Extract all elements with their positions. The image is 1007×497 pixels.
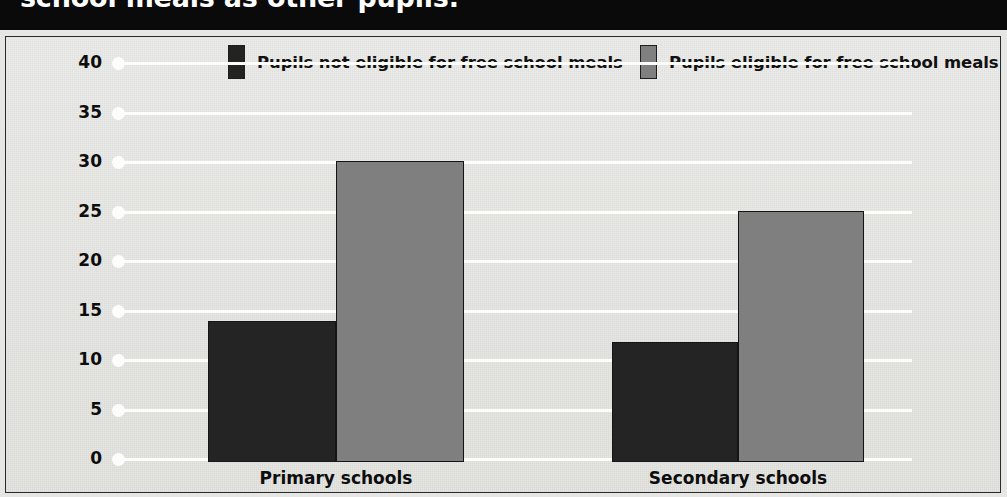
x-axis-label: Secondary schools [612, 468, 864, 488]
bar-not-eligible [208, 321, 336, 462]
page-title: school meals as other pupils. [20, 0, 459, 13]
y-tick-label: 40 [68, 52, 102, 72]
x-axis-label: Primary schools [208, 468, 464, 488]
y-tick-dot [112, 107, 125, 120]
y-tick-label: 10 [68, 349, 102, 369]
y-tick-label: 30 [68, 151, 102, 171]
y-axis-title-line2: who are eligible for free school meals [5, 36, 7, 85]
gridline [120, 62, 912, 65]
chart-card: Pupils not eligible for free school meal… [5, 36, 1001, 493]
y-tick-dot [112, 305, 125, 318]
y-tick-label: 5 [68, 399, 102, 419]
chart-page: school meals as other pupils. Pupils not… [0, 0, 1007, 497]
gridline [120, 112, 912, 115]
y-tick-dot [112, 404, 125, 417]
y-tick-dot [112, 354, 125, 367]
bar-not-eligible [612, 342, 738, 462]
y-tick-dot [112, 206, 125, 219]
y-tick-dot [112, 255, 125, 268]
y-tick-dot [112, 156, 125, 169]
bar-eligible [336, 161, 464, 462]
y-tick-label: 0 [68, 448, 102, 468]
y-tick-label: 35 [68, 102, 102, 122]
y-axis-title: Average proportion of pupils in the scho… [5, 36, 58, 85]
y-tick-label: 20 [68, 250, 102, 270]
y-tick-label: 15 [68, 300, 102, 320]
y-tick-dot [112, 57, 125, 70]
title-banner: school meals as other pupils. [0, 0, 1007, 30]
gridline [120, 161, 912, 164]
bar-eligible [738, 211, 864, 462]
plot-area: 0510152025303540 Primary schoolsSecondar… [112, 62, 912, 462]
y-axis-title-line3: (per cent) [24, 36, 41, 85]
y-tick-label: 25 [68, 201, 102, 221]
